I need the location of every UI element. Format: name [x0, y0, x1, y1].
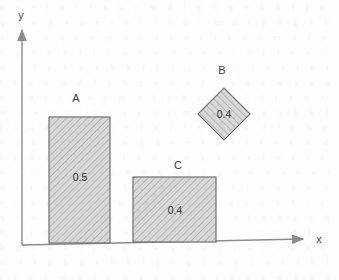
- diagram-svg: y x A 0.5 B 0.4 C 0.4: [0, 0, 339, 280]
- shape-c-label: C: [174, 159, 182, 171]
- figure-canvas: a o e i n r t s u c m d l p h g v b k f …: [0, 0, 339, 280]
- shape-b-label: B: [218, 64, 225, 76]
- shape-c-value: 0.4: [168, 204, 183, 216]
- x-axis-label: x: [316, 233, 322, 245]
- y-axis-label: y: [18, 9, 24, 21]
- shape-a-label: A: [72, 92, 80, 104]
- shape-a-value: 0.5: [73, 171, 88, 183]
- shape-b-value: 0.4: [217, 108, 232, 120]
